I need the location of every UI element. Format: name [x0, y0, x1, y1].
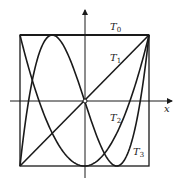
label-t3: T3 — [133, 146, 144, 159]
chebyshev-diagram: T0 T1 T2 T3 x — [0, 0, 184, 186]
label-t0: T0 — [110, 21, 121, 34]
origin-marker — [83, 99, 87, 103]
x-axis-label: x — [164, 103, 170, 114]
label-t1: T1 — [110, 52, 121, 65]
label-t2: T2 — [110, 112, 121, 125]
